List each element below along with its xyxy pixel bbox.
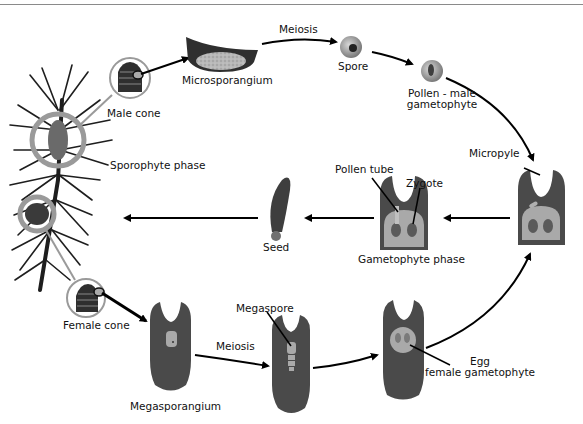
megasporangium-icon (150, 302, 191, 391)
label-gametophyte-phase: Gametophyte phase (358, 254, 465, 265)
label-seed: Seed (263, 242, 289, 253)
arrow-megasporangium-to-megaspore (195, 355, 268, 366)
spore-icon (340, 36, 362, 58)
arrow-femalecone-to-megasporangium (102, 293, 146, 321)
arrow-spore-to-pollen (372, 52, 412, 64)
label-meiosis-top: Meiosis (279, 24, 318, 35)
male-cone-icon (110, 58, 150, 98)
arrow-egg-to-ovule (426, 254, 530, 348)
label-pollen-line2: gametophyte (402, 99, 482, 110)
label-female-cone: Female cone (63, 320, 130, 331)
label-micropyle: Micropyle (469, 148, 520, 159)
arrow-megaspore-to-egg (313, 355, 377, 368)
arrow-malecone-to-microsporangium (141, 58, 188, 74)
seed-icon (270, 178, 290, 241)
label-megaspore: Megaspore (236, 303, 294, 314)
arrow-microsporangium-to-spore (262, 39, 336, 44)
label-pollen: Pollen - male gametophyte (402, 88, 482, 110)
label-spore: Spore (338, 61, 368, 72)
label-egg-line2: female gametophyte (425, 367, 535, 378)
label-egg: Egg female gametophyte (425, 356, 535, 378)
ovule-pollinated-icon (518, 170, 565, 245)
label-microsporangium: Microsporangium (182, 75, 273, 86)
label-meiosis-bottom: Meiosis (216, 341, 255, 352)
label-pollen-tube: Pollen tube (335, 164, 394, 175)
female-cone-icon (67, 279, 105, 317)
label-zygote: Zygote (406, 178, 443, 189)
label-male-cone: Male cone (107, 108, 161, 119)
pollen-icon (421, 60, 443, 82)
label-sporophyte-phase: Sporophyte phase (110, 160, 205, 171)
microsporangium-icon (186, 37, 258, 72)
label-megasporangium: Megasporangium (130, 401, 221, 412)
megaspore-icon (272, 315, 310, 413)
